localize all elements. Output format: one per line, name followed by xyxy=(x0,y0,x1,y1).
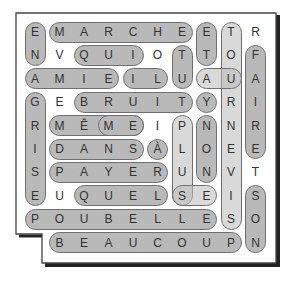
grid-cell-r3-c1[interactable]: E xyxy=(48,91,72,113)
grid-cell-r6-c2[interactable]: A xyxy=(72,161,96,183)
grid-cell-r0-c2[interactable]: A xyxy=(72,21,96,43)
grid-cell-r4-c5[interactable]: I xyxy=(146,115,170,137)
grid-cell-r0-c8[interactable]: T xyxy=(219,21,243,43)
grid-cell-r5-c7[interactable]: O xyxy=(195,138,219,160)
grid-cell-r5-c6[interactable]: L xyxy=(170,138,194,160)
grid-cell-r9-c6[interactable]: O xyxy=(170,232,194,254)
grid-cell-r7-c7[interactable]: E xyxy=(195,185,219,207)
word-search-board: EMARCHEETRNVQUIOTTOFAMIEILUAUAGEBRUITYRI… xyxy=(0,0,289,281)
grid-cell-r6-c7[interactable]: N xyxy=(195,161,219,183)
grid-cell-r6-c4[interactable]: E xyxy=(121,161,145,183)
grid-cell-r5-c9[interactable]: E xyxy=(244,138,268,160)
grid-cell-r4-c8[interactable]: N xyxy=(219,115,243,137)
grid-cell-r3-c0[interactable]: G xyxy=(23,91,47,113)
grid-cell-r0-c9[interactable]: R xyxy=(244,21,268,43)
grid-cell-r3-c9[interactable]: I xyxy=(244,91,268,113)
grid-cell-r0-c0[interactable]: E xyxy=(23,21,47,43)
grid-cell-r5-c8[interactable]: E xyxy=(219,138,243,160)
grid-cell-r2-c9[interactable]: A xyxy=(244,68,268,90)
grid-cell-r7-c9[interactable]: S xyxy=(244,185,268,207)
grid-cell-r6-c6[interactable]: U xyxy=(170,161,194,183)
grid-cell-r2-c7[interactable]: A xyxy=(195,68,219,90)
grid-cell-r0-c1[interactable]: M xyxy=(48,21,72,43)
grid-cell-r3-c7[interactable]: Y xyxy=(195,91,219,113)
grid-cell-r1-c3[interactable]: U xyxy=(97,44,121,66)
grid-cell-r8-c0[interactable]: P xyxy=(23,208,47,230)
grid-cell-r0-c4[interactable]: C xyxy=(121,21,145,43)
grid-cell-r1-c0[interactable]: N xyxy=(23,44,47,66)
grid-cell-r3-c8[interactable]: R xyxy=(219,91,243,113)
grid-cell-r7-c6[interactable]: S xyxy=(170,185,194,207)
grid-cell-r4-c2[interactable]: Ê xyxy=(72,115,96,137)
grid-cell-r9-c8[interactable]: P xyxy=(219,232,243,254)
grid-cell-r4-c4[interactable]: E xyxy=(121,115,145,137)
grid-cell-r8-c8[interactable]: S xyxy=(219,208,243,230)
grid-cell-r4-c9[interactable]: R xyxy=(244,115,268,137)
grid-cell-r8-c6[interactable]: L xyxy=(170,208,194,230)
grid-cell-r2-c0[interactable]: A xyxy=(23,68,47,90)
grid-cell-r3-c4[interactable]: U xyxy=(121,91,145,113)
grid-cell-r0-c7[interactable]: E xyxy=(195,21,219,43)
grid-cell-r5-c3[interactable]: N xyxy=(97,138,121,160)
grid-cell-r4-c7[interactable]: N xyxy=(195,115,219,137)
grid-cell-r2-c2[interactable]: I xyxy=(72,68,96,90)
grid-cell-r7-c3[interactable]: U xyxy=(97,185,121,207)
grid-cell-r7-c0[interactable]: E xyxy=(23,185,47,207)
grid-cell-r2-c1[interactable]: M xyxy=(48,68,72,90)
grid-cell-r7-c8[interactable]: I xyxy=(219,185,243,207)
grid-cell-r9-c5[interactable]: C xyxy=(146,232,170,254)
grid-cell-r8-c2[interactable]: U xyxy=(72,208,96,230)
grid-cell-r0-c6[interactable]: E xyxy=(170,21,194,43)
grid-cell-r7-c2[interactable]: Q xyxy=(72,185,96,207)
grid-cell-r6-c3[interactable]: Y xyxy=(97,161,121,183)
grid-cell-r4-c3[interactable]: M xyxy=(97,115,121,137)
grid-cell-r5-c5[interactable]: À xyxy=(146,138,170,160)
grid-cell-r7-c1[interactable]: U xyxy=(48,185,72,207)
grid-cell-r3-c2[interactable]: B xyxy=(72,91,96,113)
grid-cell-r1-c7[interactable]: T xyxy=(195,44,219,66)
grid-cell-r6-c0[interactable]: S xyxy=(23,161,47,183)
grid-cell-r9-c4[interactable]: U xyxy=(121,232,145,254)
grid-cell-r8-c5[interactable]: L xyxy=(146,208,170,230)
grid-cell-r8-c1[interactable]: O xyxy=(48,208,72,230)
grid-cell-r9-c7[interactable]: U xyxy=(195,232,219,254)
grid-cell-r2-c3[interactable]: E xyxy=(97,68,121,90)
grid-cell-r3-c3[interactable]: R xyxy=(97,91,121,113)
grid-cell-r6-c9[interactable]: T xyxy=(244,161,268,183)
grid-cell-r8-c7[interactable]: E xyxy=(195,208,219,230)
grid-cell-r7-c4[interactable]: E xyxy=(121,185,145,207)
grid-cell-r9-c2[interactable]: E xyxy=(72,232,96,254)
grid-cell-r4-c1[interactable]: M xyxy=(48,115,72,137)
grid-cell-r2-c6[interactable]: U xyxy=(170,68,194,90)
grid-cell-r0-c5[interactable]: H xyxy=(146,21,170,43)
grid-cell-r9-c3[interactable]: A xyxy=(97,232,121,254)
grid-cell-r1-c5[interactable]: O xyxy=(146,44,170,66)
grid-cell-r5-c0[interactable]: I xyxy=(23,138,47,160)
grid-cell-r9-c1[interactable]: B xyxy=(48,232,72,254)
grid-cell-r5-c1[interactable]: D xyxy=(48,138,72,160)
grid-cell-r6-c5[interactable]: R xyxy=(146,161,170,183)
grid-cell-r9-c9[interactable]: N xyxy=(244,232,268,254)
grid-cell-r2-c8[interactable]: U xyxy=(219,68,243,90)
grid-cell-r0-c3[interactable]: R xyxy=(97,21,121,43)
grid-cell-r6-c8[interactable]: V xyxy=(219,161,243,183)
grid-cell-r4-c6[interactable]: P xyxy=(170,115,194,137)
grid-cell-r6-c1[interactable]: P xyxy=(48,161,72,183)
grid-cell-r8-c9[interactable]: O xyxy=(244,208,268,230)
grid-cell-r3-c5[interactable]: I xyxy=(146,91,170,113)
grid-cell-r1-c1[interactable]: V xyxy=(48,44,72,66)
grid-cell-r5-c2[interactable]: A xyxy=(72,138,96,160)
grid-cell-r5-c4[interactable]: S xyxy=(121,138,145,160)
grid-cell-r1-c4[interactable]: I xyxy=(121,44,145,66)
grid-cell-r1-c8[interactable]: O xyxy=(219,44,243,66)
grid-cell-r2-c4[interactable]: I xyxy=(121,68,145,90)
grid-cell-r1-c2[interactable]: Q xyxy=(72,44,96,66)
grid-cell-r3-c6[interactable]: T xyxy=(170,91,194,113)
grid-cell-r1-c6[interactable]: T xyxy=(170,44,194,66)
grid-cell-r7-c5[interactable]: L xyxy=(146,185,170,207)
grid-cell-r4-c0[interactable]: R xyxy=(23,115,47,137)
grid-cell-r8-c3[interactable]: B xyxy=(97,208,121,230)
grid-cell-r1-c9[interactable]: F xyxy=(244,44,268,66)
grid-cell-r8-c4[interactable]: E xyxy=(121,208,145,230)
grid-cell-r2-c5[interactable]: L xyxy=(146,68,170,90)
